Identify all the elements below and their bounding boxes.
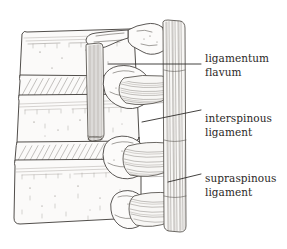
label-ligamentum-flavum: ligamentum flavum [205, 52, 269, 79]
supraspinous-ligament [163, 20, 186, 232]
label-interspinous-ligament-line2: ligament [205, 126, 272, 140]
label-interspinous-ligament-line1: interspinous [205, 112, 272, 124]
label-ligamentum-flavum-line1: ligamentum [205, 52, 269, 64]
label-supraspinous-ligament: supraspinous ligament [205, 172, 276, 199]
ligamentum-flavum [86, 43, 104, 142]
label-supraspinous-ligament-line1: supraspinous [205, 172, 276, 184]
label-interspinous-ligament: interspinous ligament [205, 112, 272, 139]
label-ligamentum-flavum-line2: flavum [205, 66, 269, 80]
label-supraspinous-ligament-line2: ligament [205, 186, 276, 200]
